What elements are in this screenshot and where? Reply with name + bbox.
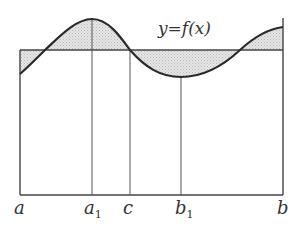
- shaded-region-4: [240, 27, 283, 50]
- function-label: y=f(x): [157, 18, 211, 38]
- label-a1-subscript: 1: [95, 208, 102, 221]
- label-a1-base: a: [84, 197, 95, 218]
- label-b1-subscript: 1: [187, 208, 194, 221]
- mean-value-diagram: y=f(x) a a1 c b1 b: [0, 0, 302, 234]
- label-b1: b1: [175, 197, 194, 221]
- label-a1: a1: [84, 197, 102, 221]
- label-b1-base: b: [175, 197, 187, 218]
- label-b: b: [277, 197, 289, 218]
- label-c: c: [123, 197, 133, 218]
- label-a: a: [14, 197, 25, 218]
